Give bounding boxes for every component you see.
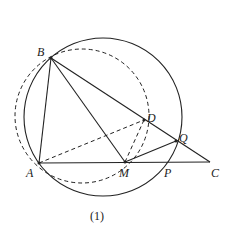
- point-D: [143, 119, 146, 122]
- label-A: A: [25, 166, 34, 180]
- segment-AD: [39, 120, 144, 163]
- point-A: [38, 162, 41, 165]
- figure-caption: (1): [90, 209, 104, 223]
- label-P: P: [163, 166, 172, 180]
- label-C: C: [211, 166, 220, 180]
- label-B: B: [37, 45, 45, 59]
- point-B: [50, 57, 53, 60]
- segment-BM: [51, 58, 125, 162]
- segment-AB: [39, 58, 51, 163]
- point-Q: [175, 140, 178, 143]
- segment-MQ: [125, 141, 176, 162]
- label-M: M: [118, 166, 130, 180]
- geometry-figure: B A M P C D Q (1): [0, 0, 235, 233]
- solid-circle: [24, 38, 182, 196]
- label-D: D: [146, 111, 156, 125]
- point-M: [124, 161, 127, 164]
- label-Q: Q: [179, 131, 188, 145]
- segment-BC: [51, 58, 210, 162]
